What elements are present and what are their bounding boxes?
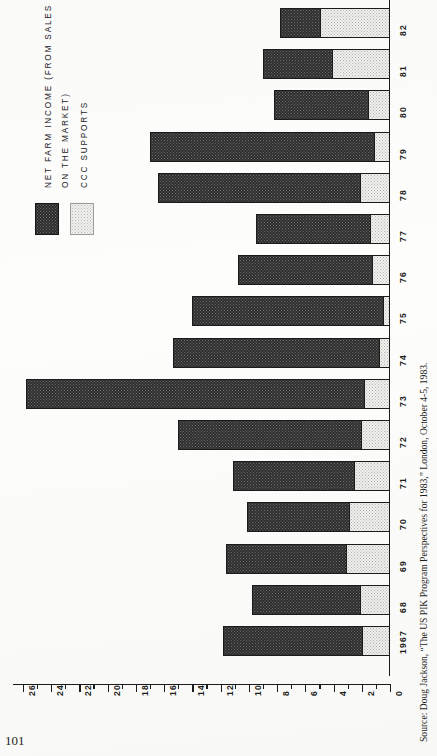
- category-label-80: 80: [398, 106, 408, 118]
- axis-tick-minor: [37, 684, 38, 689]
- bar-segment-ccc-supports: [368, 91, 389, 119]
- axis-tick-label-26: 26: [27, 684, 37, 696]
- bar-segment-ccc-supports: [372, 256, 389, 284]
- bar-row: [0, 379, 392, 409]
- category-label-81: 81: [398, 65, 408, 77]
- bar-row: [0, 255, 392, 285]
- category-label-75: 75: [398, 312, 408, 324]
- bar-segment-ccc-supports: [360, 586, 389, 614]
- stacked-bar-79[interactable]: [150, 132, 390, 162]
- axis-tick-label-20: 20: [112, 684, 122, 696]
- axis-tick-major: [164, 684, 165, 692]
- source-note: Source: Doug Jackson, “The US PIK Progra…: [418, 363, 429, 742]
- bar-segment-ccc-supports: [364, 380, 389, 408]
- category-label-82: 82: [398, 24, 408, 36]
- axis-tick-major: [108, 684, 109, 692]
- stacked-bar-78[interactable]: [158, 173, 390, 203]
- axis-tick-label-0: 0: [394, 690, 404, 696]
- bar-row: [0, 502, 392, 532]
- bar-segment-ccc-supports: [346, 545, 389, 573]
- axis-tick-major: [136, 684, 137, 692]
- category-label-77: 77: [398, 230, 408, 242]
- axis-tick-major: [390, 684, 391, 692]
- category-label-79: 79: [398, 148, 408, 160]
- axis-tick-major: [192, 684, 193, 692]
- axis-tick-major: [305, 684, 306, 692]
- axis-tick-major: [249, 684, 250, 692]
- bar-segment-net-farm-income: [281, 9, 320, 37]
- stacked-bar-73[interactable]: [26, 379, 390, 409]
- axis-tick-label-2: 2: [366, 690, 376, 696]
- category-label-68: 68: [398, 601, 408, 613]
- bar-row: [0, 296, 392, 326]
- axis-tick-major: [23, 684, 24, 692]
- category-label-71: 71: [398, 477, 408, 489]
- value-axis: 02468101214161820222426: [0, 684, 392, 698]
- bar-row: [0, 544, 392, 574]
- category-label-74: 74: [398, 354, 408, 366]
- rotated-figure: NET FARM INCOME (FROM SALES ON THE MARKE…: [0, 0, 437, 756]
- axis-tick-minor: [291, 684, 292, 689]
- bar-segment-ccc-supports: [349, 503, 389, 531]
- axis-tick-label-16: 16: [168, 684, 178, 696]
- bar-segment-net-farm-income: [227, 545, 346, 573]
- category-label-76: 76: [398, 271, 408, 283]
- axis-tick-label-14: 14: [196, 684, 206, 696]
- axis-tick-minor: [206, 684, 207, 689]
- stacked-bar-75[interactable]: [192, 296, 390, 326]
- bar-segment-ccc-supports: [361, 421, 389, 449]
- bar-row: [0, 420, 392, 450]
- bar-segment-ccc-supports: [374, 133, 389, 161]
- bar-row: [0, 461, 392, 491]
- stacked-bar-77[interactable]: [256, 214, 390, 244]
- stacked-bar-76[interactable]: [238, 255, 390, 285]
- stacked-bar-81[interactable]: [263, 49, 390, 79]
- axis-tick-label-6: 6: [309, 690, 319, 696]
- bar-segment-ccc-supports: [362, 627, 389, 655]
- stacked-bar-82[interactable]: [280, 8, 390, 38]
- axis-tick-major: [362, 684, 363, 692]
- bar-segment-net-farm-income: [193, 297, 383, 325]
- axis-tick-minor: [348, 684, 349, 689]
- category-label-72: 72: [398, 436, 408, 448]
- bar-segment-ccc-supports: [370, 215, 389, 243]
- stacked-bar-80[interactable]: [274, 90, 390, 120]
- chart-page: NET FARM INCOME (FROM SALES ON THE MARKE…: [0, 0, 437, 756]
- axis-tick-major: [51, 684, 52, 692]
- bar-row: [0, 173, 392, 203]
- stacked-bar-74[interactable]: [173, 338, 390, 368]
- stacked-bar-72[interactable]: [178, 420, 390, 450]
- bar-segment-net-farm-income: [27, 380, 364, 408]
- stacked-bar-69[interactable]: [226, 544, 390, 574]
- axis-tick-major: [334, 684, 335, 692]
- bar-segment-net-farm-income: [264, 50, 332, 78]
- axis-tick-minor: [93, 684, 94, 689]
- bar-segment-net-farm-income: [248, 503, 348, 531]
- bar-segment-net-farm-income: [257, 215, 370, 243]
- stacked-bar-70[interactable]: [247, 502, 390, 532]
- axis-tick-label-18: 18: [140, 684, 150, 696]
- stacked-bar-68[interactable]: [252, 585, 390, 615]
- bar-segment-net-farm-income: [234, 462, 354, 490]
- axis-tick-major: [79, 684, 80, 692]
- axis-tick-minor: [263, 684, 264, 689]
- bar-segment-net-farm-income: [151, 133, 374, 161]
- bar-segment-net-farm-income: [275, 91, 368, 119]
- axis-tick-label-10: 10: [253, 684, 263, 696]
- stacked-bar-71[interactable]: [233, 461, 390, 491]
- stacked-bar-1967[interactable]: [223, 626, 390, 656]
- bar-segment-ccc-supports: [354, 462, 389, 490]
- bar-segment-ccc-supports: [320, 9, 389, 37]
- axis-tick-label-24: 24: [55, 684, 65, 696]
- axis-tick-minor: [319, 684, 320, 689]
- axis-tick-minor: [150, 684, 151, 689]
- bar-row: [0, 338, 392, 368]
- bar-segment-net-farm-income: [179, 421, 361, 449]
- category-label-78: 78: [398, 189, 408, 201]
- axis-tick-minor: [65, 684, 66, 689]
- category-label-1967: 1967: [398, 630, 408, 654]
- page-number: 101: [5, 733, 25, 749]
- category-label-69: 69: [398, 560, 408, 572]
- bar-segment-ccc-supports: [360, 174, 389, 202]
- bar-segment-ccc-supports: [379, 339, 389, 367]
